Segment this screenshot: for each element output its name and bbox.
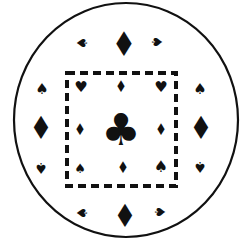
bottom-left-spade-spade-icon: ♠ xyxy=(75,207,89,220)
top-right-spade-spade-icon: ♠ xyxy=(150,36,164,49)
right-lower-spade-spade-icon: ♠ xyxy=(193,159,206,174)
inner-top-left-heart-heart-icon: ♥ xyxy=(74,80,87,95)
top-left-spade-spade-icon: ♠ xyxy=(75,37,89,50)
left-upper-spade-spade-icon: ♠ xyxy=(35,82,48,97)
inner-bottom-right-spade-spade-icon: ♠ xyxy=(154,159,168,175)
inner-top-diamond-diamond-icon: ♦ xyxy=(115,79,126,95)
top-diamond-diamond-icon: ♦ xyxy=(112,27,136,61)
inner-left-diamond-diamond-icon: ♦ xyxy=(74,122,85,138)
inner-bottom-diamond-diamond-icon: ♦ xyxy=(117,160,128,176)
center-club-club-icon: ♣ xyxy=(101,108,140,152)
inner-bottom-left-spade-spade-icon: ♠ xyxy=(74,162,86,175)
bottom-right-spade-spade-icon: ♠ xyxy=(153,206,167,219)
inner-right-diamond-diamond-icon: ♦ xyxy=(155,122,166,138)
left-lower-spade-spade-icon: ♠ xyxy=(34,160,47,175)
right-diamond-diamond-icon: ♦ xyxy=(190,112,213,144)
inner-top-right-heart-heart-icon: ♥ xyxy=(154,80,167,95)
bottom-diamond-diamond-icon: ♦ xyxy=(114,200,137,232)
left-diamond-diamond-icon: ♦ xyxy=(30,112,53,144)
right-upper-spade-spade-icon: ♠ xyxy=(193,82,206,97)
